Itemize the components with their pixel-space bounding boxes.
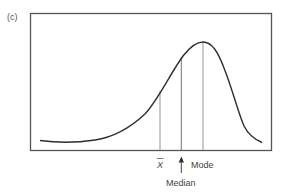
median-label: Median: [166, 178, 196, 188]
svg-text:X: X: [156, 160, 164, 170]
median-arrow-icon: [179, 157, 184, 174]
panel-label: (c): [7, 12, 18, 22]
plot-frame: [31, 14, 272, 151]
mean-label: X: [156, 159, 164, 171]
distribution-curve: [40, 42, 262, 143]
mode-label: Mode: [191, 160, 214, 170]
skewed-distribution-figure: (c) X Mode Median: [0, 0, 287, 196]
